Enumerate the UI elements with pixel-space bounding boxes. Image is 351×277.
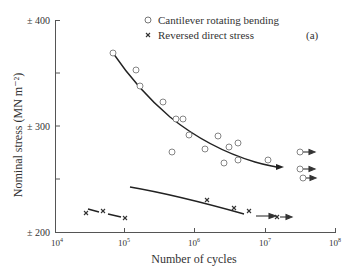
y-tick-300: ± 300 [27, 121, 50, 132]
legend-circle-marker [145, 17, 151, 23]
arrowhead-icon [276, 164, 284, 170]
legend-label-cantilever: Cantilever rotating bending [158, 14, 279, 26]
x-tick-1e6: 106 [188, 237, 200, 248]
x-tick-1e4: 104 [51, 237, 63, 248]
x-tick-labels: 104 105 106 107 108 [51, 237, 341, 248]
legend: Cantilever rotating bending Reversed dir… [145, 14, 279, 41]
runouts-cantilever [297, 149, 316, 181]
series-cantilever [110, 50, 271, 166]
x-axis-label: Number of cycles [151, 252, 237, 266]
y-tick-400: ± 400 [27, 15, 50, 26]
y-axis-label: Nominal stress (MN m⁻²) [11, 73, 25, 197]
panel-label: (a) [306, 29, 319, 42]
x-tick-1e7: 107 [259, 237, 271, 248]
sn-chart: ± 400 ± 300 ± 200 104 105 106 107 108 Nu… [0, 0, 351, 277]
legend-cross-marker [146, 33, 150, 37]
y-tick-200: ± 200 [27, 227, 50, 238]
fit-curve-reversed-main [130, 187, 244, 214]
x-tick-1e8: 108 [329, 237, 341, 248]
runouts-reversed [256, 214, 292, 220]
x-tick-1e5: 105 [118, 237, 130, 248]
legend-label-reversed: Reversed direct stress [158, 29, 254, 41]
